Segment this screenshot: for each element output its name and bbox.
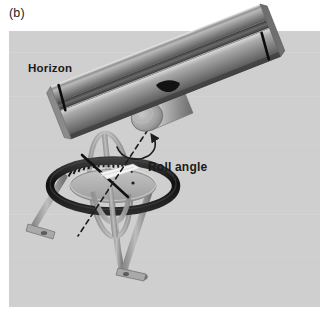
- disc-index-dot: [131, 181, 134, 184]
- label-roll-angle: Roll angle: [148, 160, 207, 174]
- figure-panel-b: (b): [0, 0, 329, 318]
- figure-illustration: Horizon Roll angle: [0, 0, 329, 318]
- label-horizon: Horizon: [28, 62, 72, 74]
